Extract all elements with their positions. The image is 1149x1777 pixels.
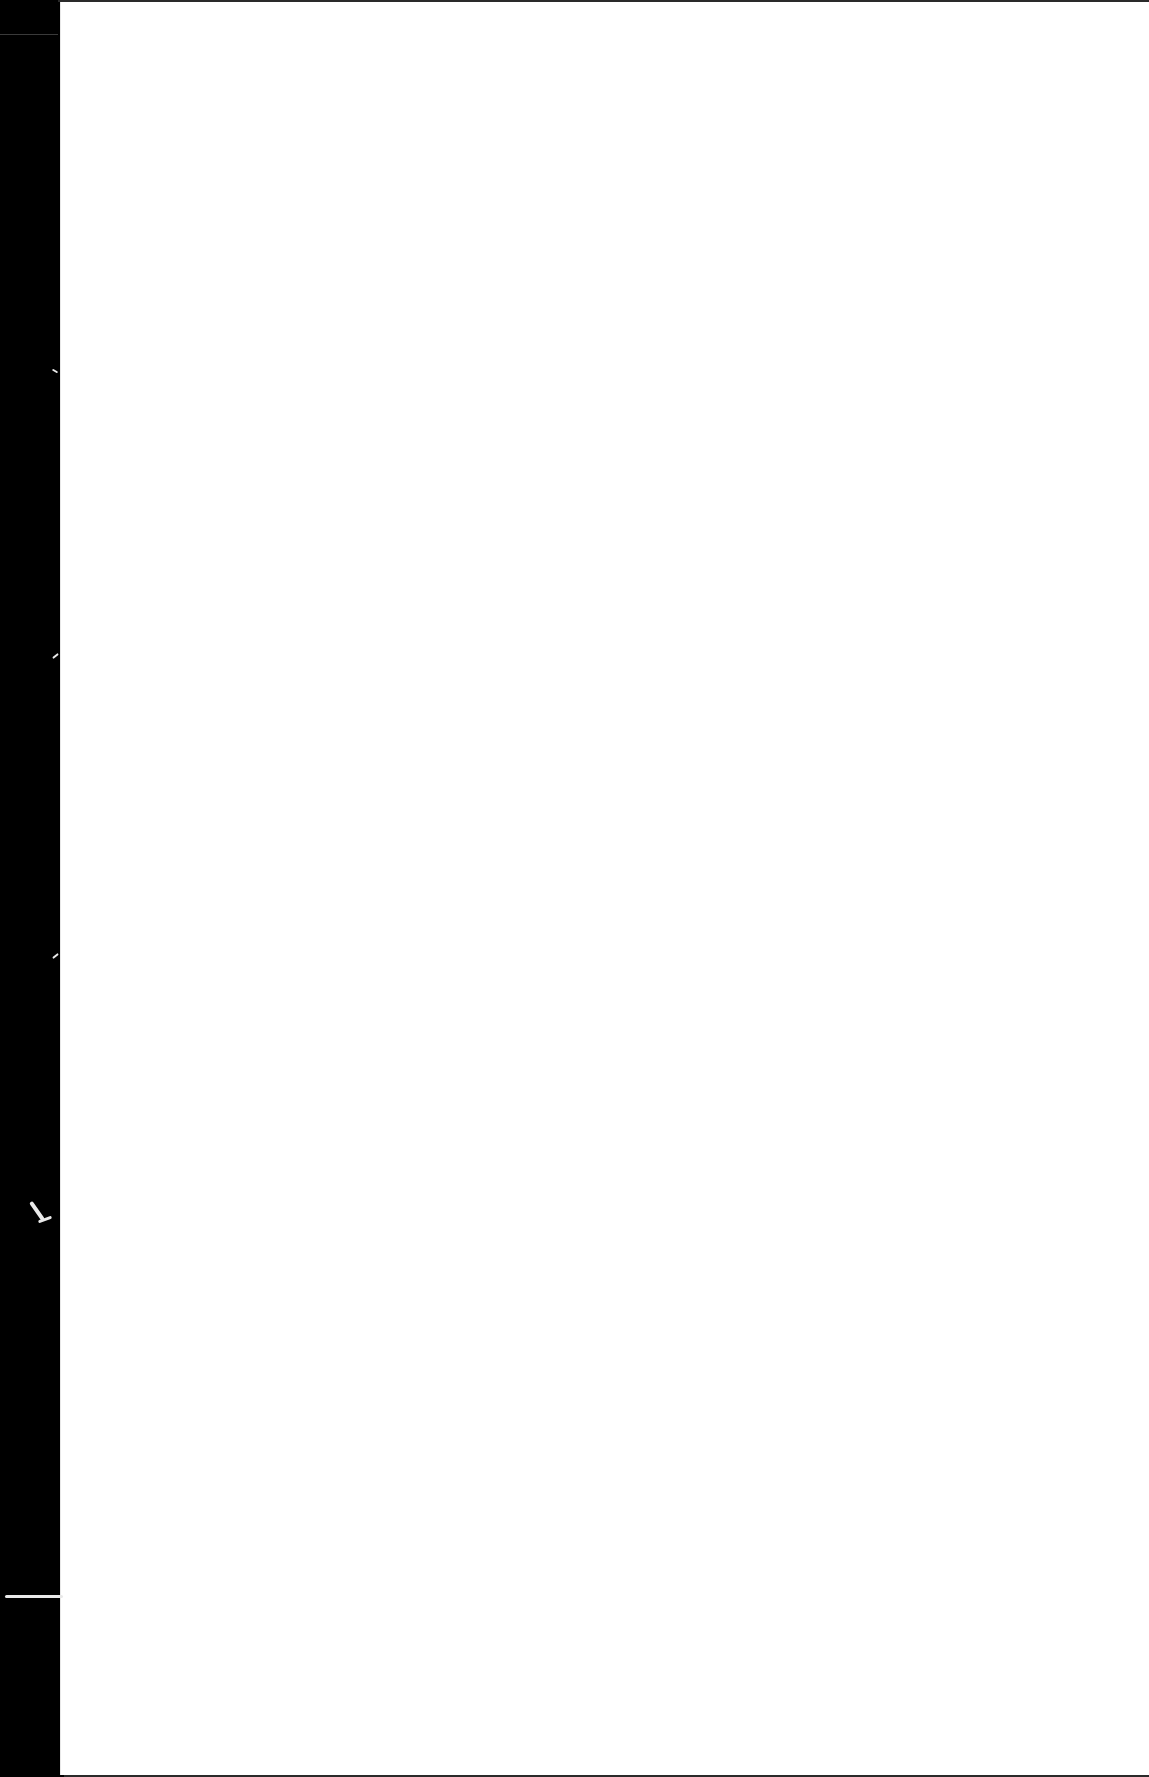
scan-artifact-line (0, 34, 58, 35)
blank-page (60, 2, 1149, 1775)
dust-artifact (5, 1595, 63, 1598)
